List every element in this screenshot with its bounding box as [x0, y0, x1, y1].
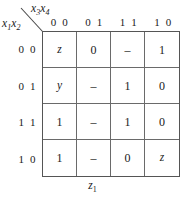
- kmap-cell: 1: [145, 32, 179, 68]
- row-header-column: 0 0 0 1 1 1 1 0: [2, 31, 40, 177]
- row-header: 0 0: [2, 31, 40, 68]
- kmap-cell: 1: [43, 104, 77, 140]
- column-header: 1 1: [111, 14, 146, 31]
- kmap-cell: –: [111, 32, 145, 68]
- kmap-cell: –: [77, 104, 111, 140]
- column-variable-label: x3x4: [31, 3, 50, 15]
- caption-subscript: 1: [93, 185, 97, 194]
- row-header: 1 1: [2, 104, 40, 141]
- kmap-cell: y: [43, 68, 77, 104]
- kmap-cell: 0: [145, 104, 179, 140]
- kmap-cell: z: [43, 32, 77, 68]
- column-variable-base-2: x: [40, 2, 45, 14]
- kmap-cell: –: [77, 140, 111, 176]
- kmap-cell: –: [77, 68, 111, 104]
- kmap-cell: 0: [111, 140, 145, 176]
- kmap-cell: 0: [77, 32, 111, 68]
- column-header-row: 0 0 0 1 1 1 1 0: [42, 14, 180, 31]
- kmap-cell: 1: [111, 104, 145, 140]
- kmap-cell: z: [145, 140, 179, 176]
- row-header: 1 0: [2, 141, 40, 178]
- kmap-cell: 1: [43, 140, 77, 176]
- column-header: 0 1: [77, 14, 112, 31]
- karnaugh-map-grid: z 0 – 1 y – 1 0 1 – 1 0 1 – 0 z: [42, 31, 180, 177]
- row-variable-label: x1x2: [2, 18, 21, 30]
- row-header: 0 1: [2, 68, 40, 105]
- column-header: 1 0: [146, 14, 181, 31]
- kmap-cell: 0: [145, 68, 179, 104]
- kmap-cell: 1: [111, 68, 145, 104]
- kmap-caption: z1: [0, 180, 185, 192]
- column-header: 0 0: [42, 14, 77, 31]
- row-variable-base-2: x: [11, 17, 16, 29]
